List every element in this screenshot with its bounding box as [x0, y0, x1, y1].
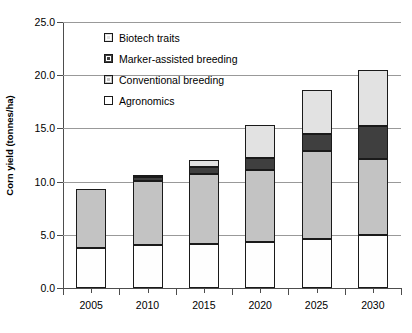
y-axis-tick-mark: [57, 235, 63, 236]
x-axis-ticks: [63, 289, 402, 296]
x-axis-tick-mark: [401, 289, 402, 295]
bar-segment-marker-assisted-breeding[interactable]: [133, 177, 163, 180]
x-axis-tick-mark: [119, 289, 120, 295]
bar-segment-conventional-breeding[interactable]: [76, 189, 106, 248]
x-axis-minor-tick-mark: [317, 289, 318, 293]
bar-segment-conventional-breeding[interactable]: [189, 174, 219, 244]
x-axis-tick-labels: 200520102015202020252030: [63, 299, 402, 319]
y-axis-tick-labels: 0.05.010.015.020.025.0: [0, 22, 55, 289]
legend-swatch-marker-icon: [104, 54, 113, 63]
y-axis-tick-mark: [57, 128, 63, 129]
y-axis-tick-mark: [57, 182, 63, 183]
x-axis-tick-mark: [288, 289, 289, 295]
x-axis-tick-label: 2030: [343, 299, 403, 311]
bar-segment-agronomics[interactable]: [133, 245, 163, 288]
legend-item-label: Biotech traits: [119, 32, 180, 44]
bar-segment-biotech-traits[interactable]: [302, 90, 332, 134]
bar-segment-marker-assisted-breeding[interactable]: [245, 158, 275, 170]
legend-swatch-biotech-icon: [104, 33, 113, 42]
bar-segment-biotech-traits[interactable]: [133, 175, 163, 177]
legend-swatch-conventional-icon: [104, 75, 113, 84]
gridline: [63, 235, 401, 236]
corn-yield-stacked-bar-chart: Corn yield (tonnes/ha) 0.05.010.015.020.…: [0, 0, 412, 333]
x-axis-minor-tick-mark: [260, 289, 261, 293]
x-axis-tick-label: 2020: [230, 299, 290, 311]
x-axis-tick-label: 2010: [118, 299, 178, 311]
bar-segment-conventional-breeding[interactable]: [245, 170, 275, 242]
bar-group[interactable]: [358, 22, 388, 288]
y-axis-tick-label: 15.0: [3, 122, 55, 134]
y-axis-tick-mark: [57, 22, 63, 23]
bar-segment-conventional-breeding[interactable]: [358, 159, 388, 235]
y-axis-tick-label: 20.0: [3, 69, 55, 81]
bar-segment-biotech-traits[interactable]: [358, 70, 388, 126]
x-axis-tick-mark: [345, 289, 346, 295]
legend-item[interactable]: Conventional breeding: [104, 69, 279, 90]
legend-item[interactable]: Biotech traits: [104, 27, 279, 48]
legend-item-label: Marker-assisted breeding: [119, 53, 237, 65]
x-axis-tick-mark: [232, 289, 233, 295]
bar-segment-agronomics[interactable]: [76, 248, 106, 288]
legend-item[interactable]: Agronomics: [104, 90, 279, 111]
bar-segment-biotech-traits[interactable]: [189, 160, 219, 166]
y-axis-tick-mark: [57, 288, 63, 289]
bar-group[interactable]: [302, 22, 332, 288]
x-axis-minor-tick-mark: [148, 289, 149, 293]
legend-item[interactable]: Marker-assisted breeding: [104, 48, 279, 69]
gridline: [63, 22, 401, 23]
x-axis-tick-label: 2025: [287, 299, 347, 311]
bar-segment-agronomics[interactable]: [245, 242, 275, 288]
bar-group[interactable]: [76, 22, 106, 288]
legend-item-label: Agronomics: [119, 95, 174, 107]
bar-segment-agronomics[interactable]: [302, 239, 332, 288]
x-axis-tick-mark: [63, 289, 64, 295]
bar-segment-conventional-breeding[interactable]: [133, 181, 163, 246]
chart-legend: Biotech traitsMarker-assisted breedingCo…: [104, 27, 279, 111]
y-axis-tick-label: 5.0: [3, 229, 55, 241]
y-axis-tick-label: 25.0: [3, 16, 55, 28]
legend-swatch-agronomics-icon: [104, 96, 113, 105]
x-axis-tick-label: 2015: [174, 299, 234, 311]
bar-segment-marker-assisted-breeding[interactable]: [189, 167, 219, 174]
gridline: [63, 182, 401, 183]
x-axis-minor-tick-mark: [373, 289, 374, 293]
y-axis-tick-label: 0.0: [3, 282, 55, 294]
x-axis-tick-mark: [176, 289, 177, 295]
bar-segment-conventional-breeding[interactable]: [302, 151, 332, 239]
legend-item-label: Conventional breeding: [119, 74, 224, 86]
bar-segment-biotech-traits[interactable]: [245, 125, 275, 158]
bar-segment-agronomics[interactable]: [189, 244, 219, 288]
gridline: [63, 128, 401, 129]
y-axis-tick-mark: [57, 75, 63, 76]
x-axis-minor-tick-mark: [204, 289, 205, 293]
x-axis-tick-label: 2005: [61, 299, 121, 311]
bar-segment-marker-assisted-breeding[interactable]: [302, 134, 332, 151]
bar-segment-marker-assisted-breeding[interactable]: [358, 126, 388, 159]
bar-segment-agronomics[interactable]: [358, 235, 388, 288]
x-axis-minor-tick-mark: [91, 289, 92, 293]
y-axis-tick-label: 10.0: [3, 176, 55, 188]
